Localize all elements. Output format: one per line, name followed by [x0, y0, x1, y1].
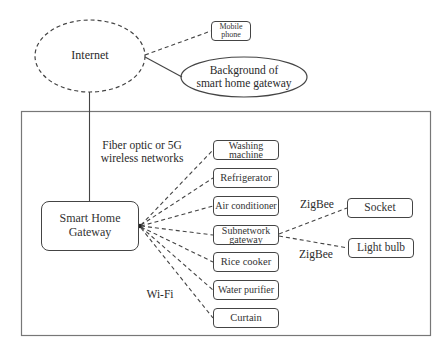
background-label: Background of smart home gateway	[184, 64, 304, 89]
mobile-phone-line2: phone	[221, 31, 241, 39]
uplink-label: Fiber optic or 5G wireless networks	[94, 139, 190, 164]
zigbee-label-bulb: ZigBee	[293, 248, 339, 260]
gateway-line1: Smart Home	[60, 212, 121, 226]
wifi-label: Wi-Fi	[140, 288, 180, 300]
device-rice-cooker: Rice cooker	[213, 252, 279, 272]
uplink-label-line1: Fiber optic or 5G	[94, 139, 190, 152]
subdevice-light-bulb: Light bulb	[348, 238, 414, 258]
subdevice-socket: Socket	[347, 198, 413, 218]
zigbee-label-socket: ZigBee	[294, 198, 340, 210]
internet-background-link	[145, 57, 182, 77]
device-curtain: Curtain	[213, 308, 279, 328]
internet-label: Internet	[50, 49, 130, 62]
device-subnetwork-line2: gateway	[229, 235, 262, 245]
zigbee-links	[279, 208, 348, 248]
uplink-label-line2: wireless networks	[94, 152, 190, 165]
background-label-line2: smart home gateway	[184, 77, 304, 90]
smart-home-gateway-node: Smart Home Gateway	[41, 201, 139, 251]
device-air-conditioner: Air conditioner	[213, 196, 279, 216]
mobile-phone-node: Mobile phone	[211, 21, 251, 41]
device-washing-machine: Washing machine	[213, 140, 279, 160]
device-refrigerator: Refrigerator	[213, 168, 279, 188]
internet-mobile-link	[145, 31, 211, 55]
gateway-line2: Gateway	[69, 226, 112, 240]
device-subnetwork-gateway: Subnetwork gateway	[213, 225, 279, 245]
device-washing-machine-line2: machine	[229, 150, 263, 160]
background-label-line1: Background of	[184, 64, 304, 77]
device-water-purifier: Water purifier	[213, 280, 279, 300]
